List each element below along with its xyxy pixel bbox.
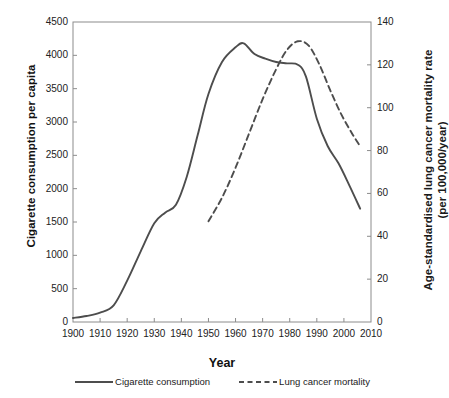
legend-label-2: Lung cancer mortality — [279, 376, 370, 387]
data-curves — [73, 41, 360, 318]
chart-legend: Cigarette consumptionLung cancer mortali… — [73, 376, 371, 387]
legend-swatch-dashed — [238, 377, 278, 387]
legend-label-1: Cigarette consumption — [115, 376, 210, 387]
tick-marks — [73, 55, 371, 322]
legend-swatch-solid — [74, 377, 114, 387]
legend-item-2: Lung cancer mortality — [238, 376, 370, 387]
legend-item-1: Cigarette consumption — [74, 376, 210, 387]
series-line-1 — [73, 43, 360, 318]
plot-frame — [73, 22, 371, 322]
series-line-2 — [208, 41, 360, 221]
